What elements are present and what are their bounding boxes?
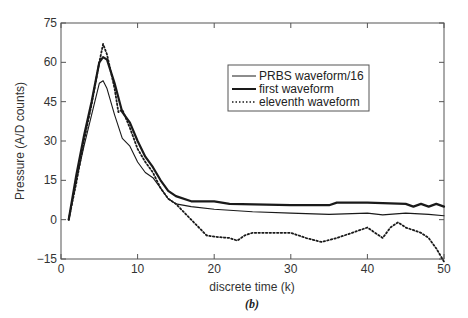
y-axis-label: Pressure (A/D counts) (13, 82, 27, 200)
x-tick-label: 10 (131, 262, 145, 276)
y-tick-label: 75 (44, 16, 58, 30)
x-tick-label: 0 (58, 262, 65, 276)
x-tick-label: 40 (361, 262, 375, 276)
line-chart: −1501530456075 01020304050 Pressure (A/D… (0, 0, 468, 318)
legend-label: eleventh waveform (259, 95, 360, 109)
x-tick-label: 50 (437, 262, 451, 276)
x-axis-label: discrete time (k) (209, 280, 294, 294)
y-tick-label: 30 (44, 134, 58, 148)
legend-label: PRBS waveform/16 (259, 69, 364, 83)
y-tick-label: 60 (44, 55, 58, 69)
y-tick-label: 45 (44, 95, 58, 109)
y-tick-label: −15 (37, 252, 58, 266)
x-axis-ticks: 01020304050 (58, 23, 451, 276)
figure-caption: (b) (245, 297, 259, 311)
legend: PRBS waveform/16 first waveform eleventh… (228, 65, 369, 111)
legend-label: first waveform (259, 82, 334, 96)
y-tick-label: 15 (44, 173, 58, 187)
x-tick-label: 20 (208, 262, 222, 276)
plot-frame (61, 23, 444, 259)
y-tick-label: 0 (50, 213, 57, 227)
x-tick-label: 30 (284, 262, 298, 276)
y-axis-ticks: −1501530456075 (37, 16, 444, 266)
